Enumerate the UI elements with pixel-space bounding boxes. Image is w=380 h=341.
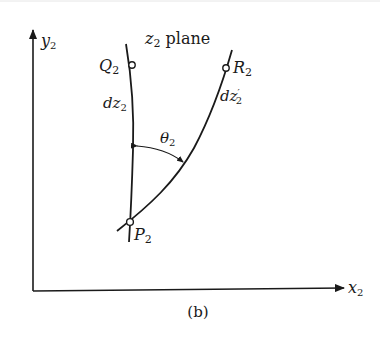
angle-arc-theta2: [137, 146, 183, 162]
segment-dz2-label: dz2: [103, 94, 127, 113]
complex-plane-mapping-diagram: y2 x2 z2 plane Q2 R2 P2 dz2 dz′2 θ2 (b): [0, 0, 380, 341]
point-q2-marker: [129, 62, 135, 68]
point-r2-label: R2: [232, 58, 252, 79]
point-q2-label: Q2: [99, 56, 119, 77]
point-p2-marker: [127, 219, 134, 226]
figure-caption: (b): [187, 303, 208, 321]
point-r2-marker: [223, 65, 229, 71]
segment-dz2-prime-label: dz′2: [220, 87, 242, 106]
plane-label: z2 plane: [144, 29, 210, 50]
curve-dz2: [126, 44, 133, 242]
y-axis-label: y2: [40, 31, 56, 51]
axes: [33, 30, 344, 291]
angle-theta2-label: θ2: [160, 129, 175, 148]
x-axis-label: x2: [348, 278, 363, 298]
point-p2-label: P2: [133, 225, 152, 246]
x-axis: [33, 288, 344, 291]
